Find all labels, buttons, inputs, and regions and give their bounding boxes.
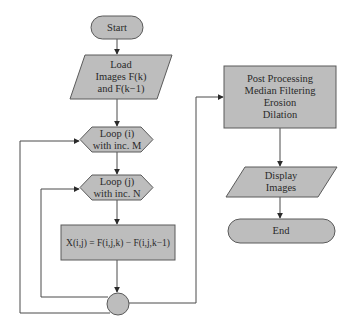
load-label-line: and F(k−1) [95, 83, 146, 95]
loop-j-label: Loop (j) with inc. N [94, 176, 141, 200]
post-label-line: Post Processing [245, 73, 316, 85]
post-label-line: Erosion [245, 97, 316, 109]
post-processing-label: Post Processing Median Filtering Erosion… [245, 73, 316, 121]
display-label-line: Images [265, 182, 298, 194]
compute-label: X(i,j) = F(i,j,k) − F(i,j,k−1) [66, 237, 170, 249]
post-label-line: Median Filtering [245, 85, 316, 97]
edge-connector-post [129, 97, 223, 303]
display-label-line: Display [265, 170, 298, 182]
end-label: End [273, 225, 290, 237]
load-label: Load Images F(k) and F(k−1) [95, 59, 146, 95]
start-label: Start [107, 22, 127, 34]
loop-j-label-line: with inc. N [94, 188, 141, 200]
display-label: Display Images [265, 170, 298, 194]
loop-i-label-line: Loop (i) [93, 128, 142, 140]
loop-j-label-line: Loop (j) [94, 176, 141, 188]
load-label-line: Load [95, 59, 146, 71]
post-label-line: Dilation [245, 109, 316, 121]
loop-i-label-line: with inc. M [93, 140, 142, 152]
flowchart-canvas [0, 0, 355, 336]
load-label-line: Images F(k) [95, 71, 146, 83]
loop-i-label: Loop (i) with inc. M [93, 128, 142, 152]
loop-connector-circle [107, 293, 129, 315]
